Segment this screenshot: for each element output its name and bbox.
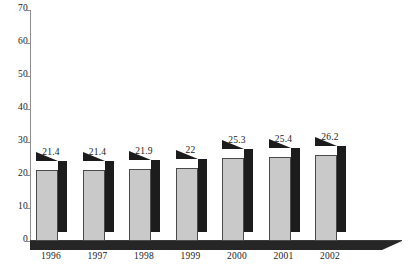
bar-side-face — [337, 146, 346, 232]
bar-side-face — [58, 161, 67, 232]
bar-value-label: 22 — [169, 145, 213, 155]
x-axis-label: 1997 — [75, 251, 121, 261]
bar-front-face — [222, 158, 244, 241]
bar-front-face — [269, 157, 291, 241]
bar-value-label: 21.4 — [76, 147, 120, 157]
x-axis-label: 1998 — [121, 251, 167, 261]
bar-front-face — [315, 155, 337, 241]
bar-chart: 706050403020100 21.421.421.92225.325.426… — [0, 0, 411, 269]
bar-side-face — [198, 159, 207, 232]
x-axis-label: 2001 — [261, 251, 307, 261]
bar-side-face — [105, 161, 114, 232]
bar-value-label: 21.9 — [122, 146, 166, 156]
bars-layer: 21.421.421.92225.325.426.2 — [0, 0, 411, 269]
bar-front-face — [176, 168, 198, 241]
bar-front-face — [36, 170, 58, 241]
bar-value-label: 26.2 — [308, 132, 352, 142]
x-axis-label: 1996 — [28, 251, 74, 261]
bar-value-label: 21.4 — [29, 147, 73, 157]
x-axis-label: 2000 — [214, 251, 260, 261]
bar-value-label: 25.4 — [262, 134, 306, 144]
bar-front-face — [83, 170, 105, 241]
bar-value-label: 25.3 — [215, 135, 259, 145]
x-axis-label: 2002 — [307, 251, 353, 261]
bar-side-face — [291, 148, 300, 232]
bar-side-face — [151, 160, 160, 232]
x-axis-label: 1999 — [168, 251, 214, 261]
bar-side-face — [244, 149, 253, 232]
bar-front-face — [129, 169, 151, 241]
